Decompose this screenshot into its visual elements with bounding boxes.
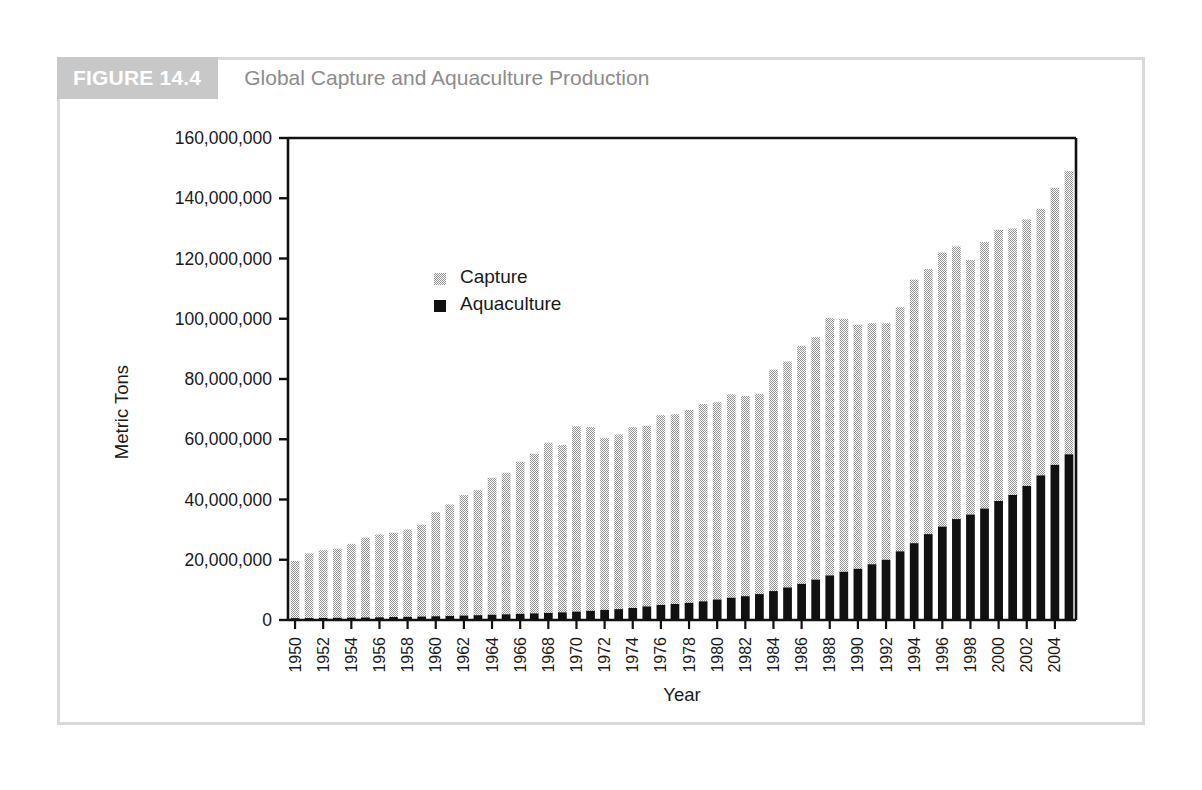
bar-group [910,280,919,620]
bar-segment-aquaculture [783,587,792,620]
bar-group [924,269,933,620]
bar-segment-aquaculture [755,594,764,620]
bar-group [1022,219,1031,620]
bar-segment-aquaculture [657,605,666,620]
x-axis-tick-label: 1954 [343,637,360,673]
bar-segment-capture [403,529,412,616]
bar-group [460,495,469,620]
x-axis: 1950195219541956195819601962196419661968… [287,620,1064,673]
x-axis-tick-label: 1992 [878,637,895,673]
bar-segment-capture [460,495,469,616]
bar-segment-capture [1065,171,1074,454]
bar-segment-capture [516,462,525,614]
bar-group [896,307,905,620]
bar-segment-capture [291,561,300,618]
bar-group [474,490,483,620]
bar-segment-capture [417,525,426,617]
y-axis-tick-label: 0 [262,610,272,630]
bar-segment-capture [431,512,440,616]
bar-segment-aquaculture [614,609,623,620]
bar-segment-capture [769,370,778,591]
legend-swatch [434,273,446,285]
y-axis-tick-label: 100,000,000 [175,309,273,329]
x-axis-tick-label: 1998 [962,637,979,673]
bar-segment-capture [347,544,356,618]
bar-segment-aquaculture [1008,495,1017,620]
bar-segment-capture [361,538,370,618]
x-axis-title: Year [663,684,700,705]
bar-group [868,323,877,620]
y-axis-tick-label: 120,000,000 [175,249,273,269]
bar-segment-aquaculture [1022,486,1031,620]
bar-segment-aquaculture [910,543,919,620]
bar-segment-capture [755,394,764,594]
bar-group [839,319,848,620]
bar-segment-aquaculture [685,603,694,620]
bar-segment-aquaculture [994,501,1003,620]
bar-segment-capture [671,414,680,604]
y-axis-tick-label: 80,000,000 [184,369,272,389]
bar-group [305,553,314,620]
bar-group [825,318,834,620]
x-axis-tick-label: 2004 [1046,637,1063,673]
bar-segment-capture [699,404,708,601]
bar-group [502,473,511,620]
x-axis-tick-label: 1984 [765,637,782,673]
legend-label: Capture [460,266,528,287]
bar-segment-capture [572,426,581,611]
bar-segment-capture [910,280,919,544]
bar-segment-capture [1022,219,1031,486]
bar-group [417,525,426,620]
bar-group [783,362,792,620]
y-axis-tick-label: 20,000,000 [184,550,272,570]
x-axis-tick-label: 1978 [681,637,698,673]
bar-segment-aquaculture [924,534,933,620]
y-axis-title: Metric Tons [111,365,132,459]
bar-segment-capture [628,427,637,608]
bar-group [628,427,637,620]
x-axis-tick-label: 1958 [399,637,416,673]
bar-group [811,337,820,620]
bar-segment-aquaculture [600,610,609,620]
bar-segment-capture [1008,228,1017,495]
bar-segment-aquaculture [980,509,989,620]
bar-group [966,260,975,620]
bar-segment-capture [488,478,497,615]
bar-group [445,504,454,620]
y-axis-tick-label: 40,000,000 [184,490,272,510]
bar-group [938,252,947,620]
legend-swatch [434,300,446,312]
bar-segment-capture [783,362,792,588]
bar-segment-capture [642,426,651,607]
bar-segment-aquaculture [741,596,750,620]
bar-group [980,242,989,620]
y-axis-tick-label: 140,000,000 [175,188,273,208]
bar-segment-aquaculture [713,600,722,620]
bar-segment-aquaculture [825,575,834,620]
bar-group [657,415,666,620]
x-axis-tick-label: 1974 [624,637,641,673]
bar-segment-capture [445,504,454,615]
x-axis-tick-label: 1956 [371,637,388,673]
bar-segment-aquaculture [811,580,820,620]
bar-group [375,534,384,620]
bar-group [797,346,806,620]
x-axis-tick-label: 1960 [427,637,444,673]
bar-group [614,434,623,620]
bar-group [952,246,961,620]
x-axis-tick-label: 2000 [990,637,1007,673]
bar-segment-capture [727,394,736,597]
bar-segment-aquaculture [952,519,961,620]
bar-group [882,323,891,620]
bar-segment-capture [811,337,820,580]
x-axis-tick-label: 1970 [568,637,585,673]
bar-group [291,561,300,620]
bar-segment-aquaculture [882,560,891,620]
bar-segment-capture [389,533,398,617]
bar-group [1065,171,1074,620]
bar-group [600,438,609,620]
x-axis-tick-label: 1966 [512,637,529,673]
bar-group [713,402,722,620]
bar-segment-capture [882,323,891,559]
bar-segment-capture [614,434,623,609]
